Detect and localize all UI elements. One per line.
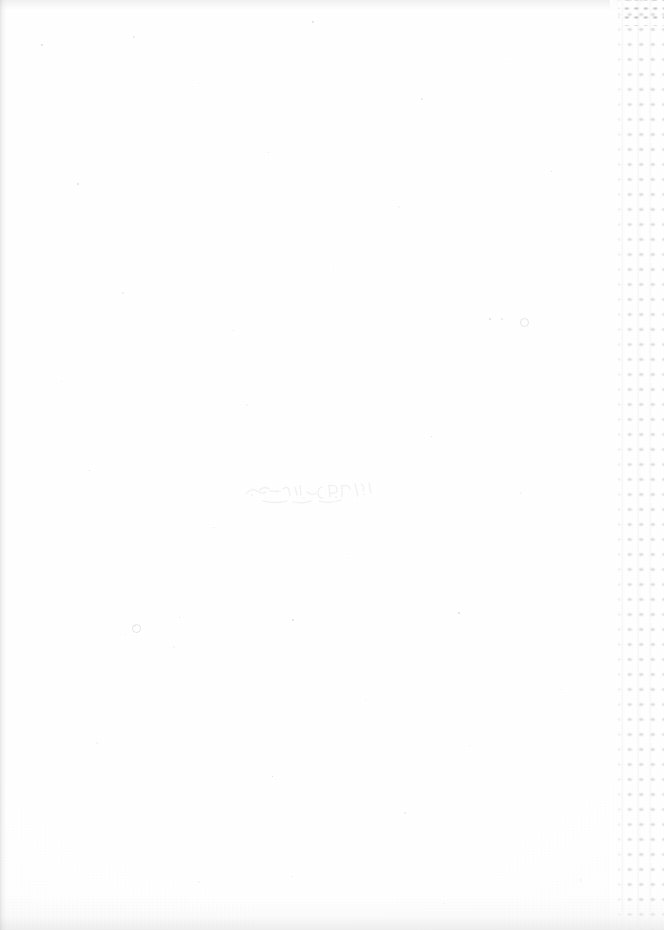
- scan-speckle-ring: [132, 624, 141, 633]
- scan-speckle: [398, 206, 400, 208]
- scan-speckle: [199, 83, 200, 84]
- scan-speckle: [347, 557, 348, 558]
- scan-speckle: [458, 612, 460, 614]
- scan-speckle: [214, 527, 215, 528]
- scanned-page: [0, 0, 664, 930]
- scan-speckle: [292, 619, 294, 621]
- scan-speckle: [312, 21, 314, 23]
- scan-speckle: [489, 318, 491, 320]
- scan-speckle: [179, 617, 180, 618]
- scan-speckle-ring: [520, 318, 529, 327]
- scan-speckle: [77, 183, 79, 185]
- scan-speckle: [173, 646, 175, 648]
- scan-edge-shadow-bottom: [0, 896, 664, 930]
- scan-speckle: [431, 436, 432, 437]
- scan-speckle: [233, 330, 234, 331]
- scan-speckle-layer: [0, 0, 664, 930]
- scan-speckle: [125, 634, 126, 635]
- scan-speckle: [291, 876, 292, 877]
- scan-speckle: [89, 470, 90, 471]
- scan-speckle: [551, 171, 552, 172]
- scan-speckle: [133, 36, 135, 38]
- scan-speckle: [580, 879, 582, 881]
- scan-speckle: [501, 318, 503, 320]
- scan-speckle: [520, 492, 522, 494]
- scan-speckle: [333, 271, 334, 272]
- scan-speckle: [62, 381, 63, 382]
- scan-speckle: [366, 700, 367, 701]
- scan-speckle: [246, 404, 248, 406]
- scan-speckle: [96, 742, 98, 744]
- scan-speckle: [470, 745, 471, 746]
- scan-speckle: [272, 776, 273, 777]
- scan-speckle: [421, 98, 423, 100]
- scan-speckle: [41, 44, 43, 46]
- scan-speckle: [506, 61, 507, 62]
- scan-speckle: [198, 881, 200, 883]
- scan-speckle: [268, 152, 269, 153]
- scan-speckle: [404, 812, 406, 814]
- scan-speckle: [122, 292, 124, 294]
- scan-speckle: [561, 689, 562, 690]
